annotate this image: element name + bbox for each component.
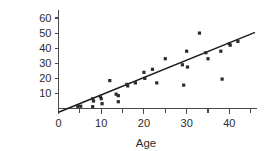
data-point bbox=[206, 57, 209, 60]
x-tick-label: 40 bbox=[223, 117, 235, 129]
x-tick-label: 10 bbox=[95, 117, 107, 129]
data-point bbox=[100, 97, 103, 100]
y-tick-label: 20 bbox=[39, 72, 51, 84]
y-tick-label: 30 bbox=[39, 57, 51, 69]
chart-canvas: 102030405060 010203040 Age Cross-Section… bbox=[0, 0, 265, 151]
data-point bbox=[219, 50, 222, 53]
x-tick-label: 20 bbox=[138, 117, 150, 129]
data-point bbox=[236, 40, 239, 43]
y-axis-tick-labels: 102030405060 bbox=[39, 12, 51, 99]
data-point bbox=[151, 68, 154, 71]
data-point bbox=[134, 81, 137, 84]
data-point bbox=[155, 81, 158, 84]
y-tick-label: 10 bbox=[39, 87, 51, 99]
scatter-plot-figure: 102030405060 010203040 Age Cross-Section… bbox=[0, 0, 265, 151]
y-axis-ticks bbox=[55, 18, 59, 93]
data-point bbox=[91, 105, 94, 108]
x-tick-label: 0 bbox=[55, 117, 61, 129]
data-point bbox=[117, 100, 120, 103]
data-point bbox=[143, 77, 146, 80]
data-point bbox=[76, 105, 79, 108]
x-axis-ticks bbox=[59, 109, 251, 114]
x-axis-title: Age bbox=[136, 137, 156, 149]
data-point bbox=[79, 105, 82, 108]
x-tick-label: 30 bbox=[181, 117, 193, 129]
x-axis-tick-labels: 010203040 bbox=[55, 117, 235, 129]
data-point bbox=[182, 84, 185, 87]
data-point bbox=[185, 50, 188, 53]
data-point-series bbox=[76, 32, 239, 109]
data-point bbox=[186, 65, 189, 68]
data-point bbox=[92, 99, 95, 102]
data-point bbox=[221, 77, 224, 80]
y-tick-label: 40 bbox=[39, 42, 51, 54]
data-point bbox=[108, 79, 111, 82]
regression-trend-line bbox=[59, 32, 256, 112]
data-point bbox=[204, 51, 207, 54]
data-point bbox=[142, 71, 145, 74]
y-tick-label: 50 bbox=[39, 27, 51, 39]
data-point bbox=[100, 102, 103, 105]
data-point bbox=[229, 44, 232, 47]
data-point bbox=[181, 63, 184, 66]
data-point bbox=[164, 57, 167, 60]
y-tick-label: 60 bbox=[39, 12, 51, 24]
data-point bbox=[198, 32, 201, 35]
data-point bbox=[126, 84, 129, 87]
data-point bbox=[117, 94, 120, 97]
